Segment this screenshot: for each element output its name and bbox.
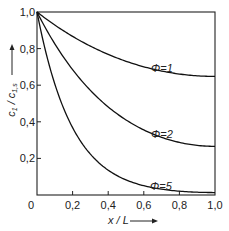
annotation-phi-5: Φ=5 bbox=[150, 180, 173, 192]
y-axis-arrow bbox=[10, 44, 15, 75]
series-line-phi-2 bbox=[37, 12, 215, 146]
plot-frame bbox=[37, 12, 215, 195]
x-tick-label: 0,8 bbox=[172, 199, 187, 211]
x-axis-arrow bbox=[130, 219, 158, 224]
y-tick-label: 0,4 bbox=[20, 116, 35, 128]
x-tick-label: 1,0 bbox=[207, 199, 222, 211]
series-line-phi-5 bbox=[37, 12, 215, 193]
axes bbox=[37, 12, 215, 195]
y-tick-label: 1,0 bbox=[20, 6, 35, 18]
series-line-phi-1 bbox=[37, 12, 215, 76]
x-tick-label: 0,4 bbox=[101, 199, 116, 211]
y-tick-label: 0,2 bbox=[20, 152, 35, 164]
chart: 00,20,40,60,81,00,20,40,60,81,0 Φ=1 Φ=2 … bbox=[0, 0, 229, 231]
chart-svg: 00,20,40,60,81,00,20,40,60,81,0 Φ=1 Φ=2 … bbox=[0, 0, 229, 231]
annotation-phi-2: Φ=2 bbox=[151, 128, 173, 140]
x-tick-label: 0 bbox=[28, 199, 34, 211]
y-tick-label: 0,6 bbox=[20, 79, 35, 91]
svg-text:c1 / c1,s: c1 / c1,s bbox=[5, 83, 18, 117]
y-tick-label: 0,8 bbox=[20, 43, 35, 55]
x-tick-label: 0,2 bbox=[65, 199, 80, 211]
y-axis-label: c1 / c1,s bbox=[5, 83, 18, 117]
curves bbox=[37, 12, 215, 193]
annotation-phi-1: Φ=1 bbox=[151, 62, 173, 74]
x-tick-label: 0,6 bbox=[136, 199, 151, 211]
x-axis-label: x / L bbox=[107, 214, 129, 226]
